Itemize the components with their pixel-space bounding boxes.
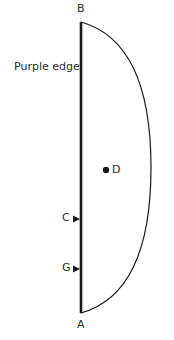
- label-point-a: A: [77, 319, 85, 330]
- label-point-d: D: [112, 164, 120, 175]
- label-point-b: B: [77, 3, 85, 14]
- marker-c-arrow-icon: [73, 216, 80, 223]
- label-purple-edge: Purple edge: [14, 61, 80, 72]
- label-marker-c: C: [62, 212, 70, 223]
- figure-canvas: B A D C G Purple edge: [0, 0, 174, 340]
- label-marker-g: G: [62, 262, 71, 273]
- semicircle-diagram-svg: [0, 0, 174, 340]
- marker-g-arrow-icon: [73, 266, 80, 273]
- point-d-dot: [103, 167, 109, 173]
